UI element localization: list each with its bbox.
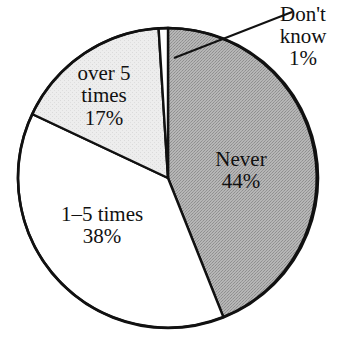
slice-label-never-name: Never <box>186 148 296 170</box>
slice-label-dont-know-name-2: know <box>244 26 362 48</box>
pie-chart: Never 44% over 5 times 17% 1–5 times 38%… <box>0 0 364 342</box>
slice-label-dont-know-name-1: Don't <box>244 4 362 26</box>
slice-label-over-5-times-name-1: over 5 <box>52 62 156 84</box>
slice-label-never: Never 44% <box>186 148 296 193</box>
slice-label-1-5-times-name: 1–5 times <box>28 203 176 225</box>
slice-label-dont-know-value: 1% <box>244 48 362 70</box>
slice-label-over-5-times: over 5 times 17% <box>52 62 156 129</box>
slice-label-never-value: 44% <box>186 170 296 192</box>
slice-label-over-5-times-name-2: times <box>52 84 156 106</box>
slice-label-1-5-times: 1–5 times 38% <box>28 203 176 248</box>
slice-label-dont-know: Don't know 1% <box>244 4 362 69</box>
slice-label-over-5-times-value: 17% <box>52 107 156 129</box>
slice-label-1-5-times-value: 38% <box>28 225 176 247</box>
